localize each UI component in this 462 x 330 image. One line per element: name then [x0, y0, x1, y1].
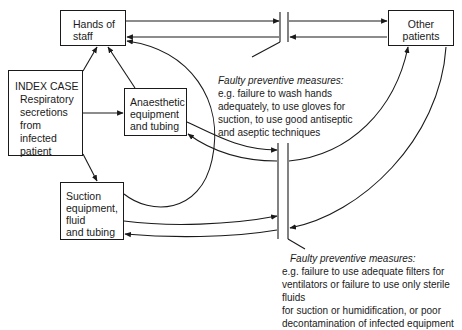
note-line: for suction or humidification, or poor: [282, 304, 462, 317]
note-heading: Faulty preventive measures:: [282, 252, 462, 265]
node-label: equipment,: [66, 202, 123, 214]
node-label: Suction: [66, 190, 123, 202]
node-index-case: INDEX CASE Respiratory secretions from i…: [8, 70, 83, 156]
note-line: adequately, to use gloves for: [218, 100, 353, 113]
note-line: e.g. failure to wash hands: [218, 87, 353, 100]
node-label: Other: [389, 18, 453, 30]
node-suction-equipment: Suction equipment, fluid and tubing: [60, 182, 124, 240]
note-line: suction, to use good antiseptic: [218, 113, 353, 126]
node-label: secretions: [15, 106, 82, 119]
lower-barrier-note: Faulty preventive measures: e.g. failure…: [282, 252, 462, 330]
note-line: decontamination of infected equipment: [282, 317, 462, 330]
upper-barrier-note: Faulty preventive measures: e.g. failure…: [218, 74, 353, 139]
node-label: Respiratory: [15, 93, 82, 106]
node-label: from: [15, 119, 82, 132]
upper-barrier-icon: [252, 12, 288, 57]
node-hands-of-staff: Hands of staff: [60, 10, 126, 46]
node-label: staff: [73, 30, 125, 42]
node-label: patient: [15, 145, 82, 158]
node-other-patients: Other patients: [388, 10, 454, 46]
node-label: and tubing: [66, 226, 123, 238]
node-label: patients: [389, 30, 453, 42]
note-line: ventilators or failure to use only steri…: [282, 278, 462, 304]
arrow-suction-to-barrier: [124, 216, 277, 224]
arrow-index-to-hands: [83, 47, 97, 71]
node-label: fluid: [66, 214, 123, 226]
node-label: Anaesthetic: [130, 96, 186, 108]
note-line: and aseptic techniques: [218, 126, 353, 139]
arrow-anaesthetic-to-hands: [108, 47, 135, 88]
node-title: INDEX CASE: [15, 80, 82, 92]
node-label: and tubing: [130, 120, 186, 132]
node-label: infected: [15, 132, 82, 145]
arrow-index-to-suction: [83, 154, 97, 181]
node-label: Hands of: [73, 18, 125, 30]
node-label: equipment: [130, 108, 186, 120]
note-line: e.g. failure to use adequate filters for: [282, 265, 462, 278]
note-heading: Faulty preventive measures:: [218, 74, 353, 87]
node-anaesthetic-equipment: Anaesthetic equipment and tubing: [124, 88, 187, 136]
arrow-barrier-to-suction: [125, 230, 277, 237]
